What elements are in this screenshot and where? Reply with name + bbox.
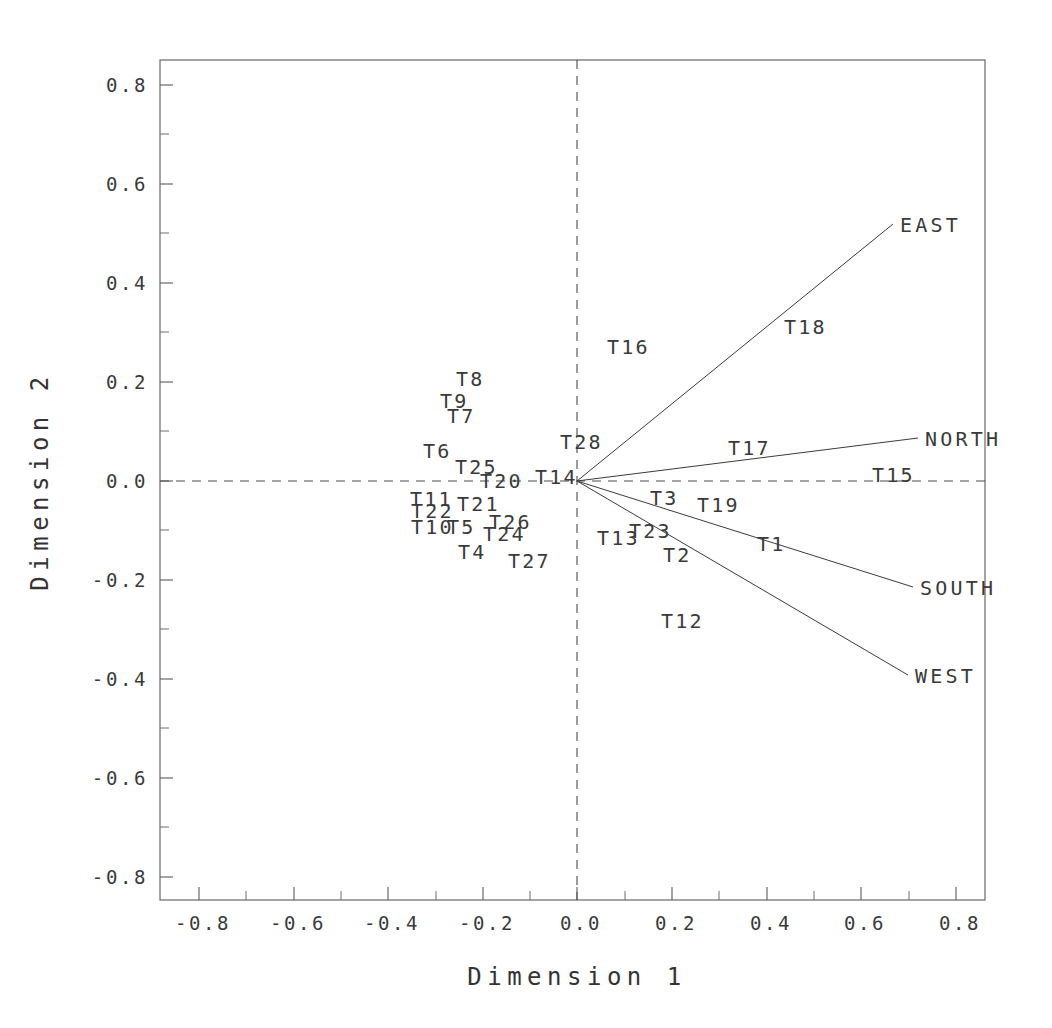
y-tick-label: 0.0 — [106, 470, 148, 492]
point-label-t28: T28 — [560, 430, 603, 454]
x-tick-label: 0.8 — [939, 912, 981, 934]
vector-label-north: NORTH — [925, 427, 1001, 451]
y-tick-labels: 0.8 0.6 0.4 0.2 0.0 -0.2 -0.4 -0.6 -0.8 — [92, 74, 148, 888]
x-tick-labels: -0.8 -0.6 -0.4 -0.2 0.0 0.2 0.4 0.6 0.8 — [175, 912, 981, 934]
point-label-t2: T2 — [663, 543, 691, 567]
column-vector-labels: EAST NORTH SOUTH WEST — [900, 213, 1001, 688]
x-tick-label: -0.2 — [459, 912, 515, 934]
y-tick-label: -0.4 — [92, 668, 148, 690]
x-tick-label: 0.6 — [844, 912, 886, 934]
point-label-t26: T26 — [489, 510, 532, 534]
x-axis-ticks — [199, 887, 956, 900]
y-tick-label: 0.4 — [106, 272, 148, 294]
point-label-t27: T27 — [508, 549, 551, 573]
x-tick-label: -0.8 — [175, 912, 231, 934]
point-label-t14: T14 — [535, 465, 578, 489]
point-label-t17: T17 — [728, 436, 771, 460]
point-label-t6: T6 — [423, 439, 451, 463]
correspondence-analysis-plot: -0.8 -0.6 -0.4 -0.2 0.0 0.2 0.4 0.6 0.8 … — [0, 0, 1052, 1028]
point-label-t23: T23 — [629, 519, 672, 543]
biplot-figure: -0.8 -0.6 -0.4 -0.2 0.0 0.2 0.4 0.6 0.8 … — [0, 0, 1052, 1028]
point-label-t1: T1 — [757, 532, 785, 556]
x-tick-label: -0.6 — [270, 912, 326, 934]
row-point-labels: T1 T2 T3 T4 T5 T6 T7 T8 T9 T10 T11 T12 T… — [410, 315, 915, 633]
y-axis-ticks — [160, 85, 173, 877]
point-label-t16: T16 — [607, 335, 650, 359]
point-label-t19: T19 — [697, 493, 740, 517]
y-tick-label: 0.6 — [106, 173, 148, 195]
point-label-t15: T15 — [872, 463, 915, 487]
vector-ray-west — [577, 481, 908, 675]
y-tick-label: -0.2 — [92, 569, 148, 591]
vector-label-west: WEST — [915, 664, 976, 688]
x-tick-label: 0.4 — [750, 912, 792, 934]
y-tick-label: -0.8 — [92, 866, 148, 888]
y-tick-label: -0.6 — [92, 767, 148, 789]
y-axis-title: Dimension 2 — [26, 371, 54, 590]
x-axis-title: Dimension 1 — [467, 963, 686, 991]
vector-label-east: EAST — [900, 213, 961, 237]
point-label-t9: T9 — [440, 389, 468, 413]
point-label-t8: T8 — [456, 367, 484, 391]
y-tick-label: 0.2 — [106, 371, 148, 393]
x-tick-label: 0.0 — [560, 912, 602, 934]
point-label-t3: T3 — [650, 486, 678, 510]
point-label-t12: T12 — [661, 609, 704, 633]
x-tick-label: -0.4 — [364, 912, 420, 934]
point-label-t18: T18 — [784, 315, 827, 339]
vector-label-south: SOUTH — [920, 576, 996, 600]
x-tick-label: 0.2 — [655, 912, 697, 934]
y-tick-label: 0.8 — [106, 74, 148, 96]
point-label-t25: T25 — [455, 455, 498, 479]
point-label-t22: T22 — [411, 499, 454, 523]
